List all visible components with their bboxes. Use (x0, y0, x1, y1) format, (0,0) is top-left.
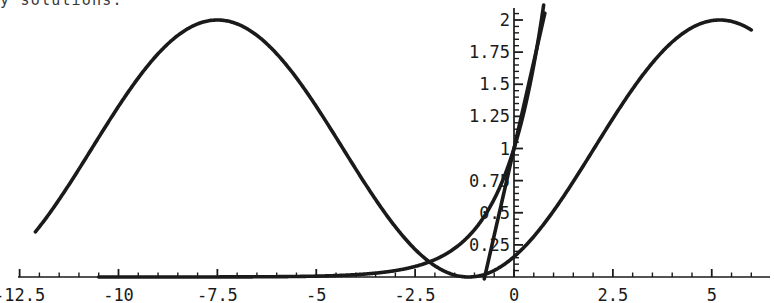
x-tick-label: 5 (707, 285, 717, 303)
y-tick-label: 1 (0, 139, 510, 159)
x-tick-label: -12.5 (0, 285, 45, 303)
plot-figure: y solutions. -12.5-10-7.5-5-2.502.55 0.2… (0, 0, 774, 303)
x-tick-label: 0 (509, 285, 519, 303)
x-tick-label: -2.5 (395, 285, 436, 303)
x-tick-label: -7.5 (197, 285, 238, 303)
y-tick-label: 0.25 (0, 235, 510, 255)
x-tick-label: -5 (306, 285, 326, 303)
y-tick-label: 0.5 (0, 203, 510, 223)
y-tick-label: 1.75 (0, 42, 510, 62)
x-tick-label: 2.5 (598, 285, 629, 303)
y-tick-label: 2 (0, 10, 510, 30)
y-tick-label: 0.75 (0, 171, 510, 191)
y-tick-label: 1.5 (0, 74, 510, 94)
y-tick-label: 1.25 (0, 106, 510, 126)
x-tick-label: -10 (103, 285, 134, 303)
